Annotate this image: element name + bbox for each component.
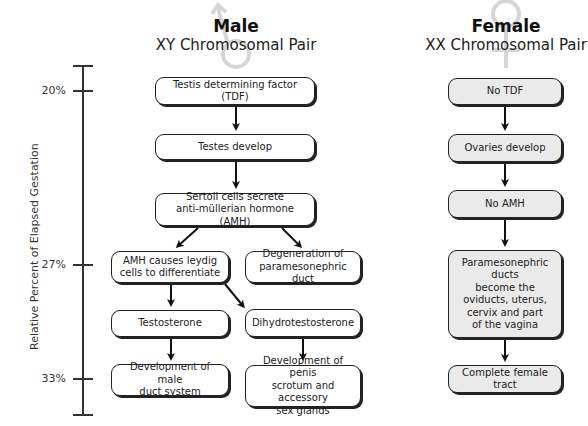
box-amh-leydig: AMH causes leydig cells to differentiate bbox=[111, 251, 229, 283]
tick-label-33: 33% bbox=[26, 372, 66, 385]
box-testosterone: Testosterone bbox=[111, 310, 229, 337]
y-axis-label: Relative Percent of Elapsed Gestation bbox=[28, 143, 41, 350]
female-subtitle: XX Chromosomal Pair bbox=[416, 36, 588, 54]
female-title: Female bbox=[446, 16, 566, 36]
box-penis-scrotum: Development of penis scrotum and accesso… bbox=[245, 365, 361, 407]
tick-label-20: 20% bbox=[26, 84, 66, 97]
box-dihydrotestosterone: Dihydrotestosterone bbox=[245, 309, 361, 337]
box-tdf: Testis determining factor (TDF) bbox=[155, 77, 315, 105]
box-no-amh: No AMH bbox=[448, 190, 562, 218]
box-sertoli: Sertoli cells secrete anti-müllerian hor… bbox=[155, 193, 315, 226]
male-subtitle: XY Chromosomal Pair bbox=[146, 36, 326, 54]
box-ovaries-develop: Ovaries develop bbox=[448, 134, 562, 162]
box-complete-female-tract: Complete female tract bbox=[448, 365, 562, 393]
box-testes-develop: Testes develop bbox=[155, 134, 315, 160]
box-degeneration: Degeneration of paramesonephric duct bbox=[245, 251, 361, 283]
box-male-duct: Development of male duct system bbox=[111, 364, 229, 396]
box-paramesonephric: Paramesonephric ducts become the oviduct… bbox=[448, 250, 562, 338]
male-title: Male bbox=[176, 16, 296, 36]
box-no-tdf: No TDF bbox=[448, 78, 562, 105]
gestation-axis bbox=[73, 66, 93, 415]
